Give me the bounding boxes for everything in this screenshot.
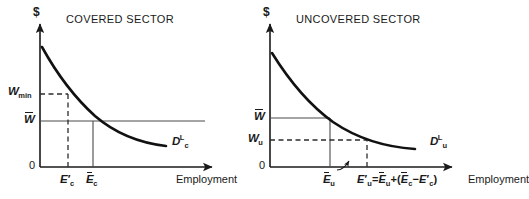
- covered-origin-label: 0: [29, 160, 35, 171]
- uncovered-curve-label-sub: u: [442, 141, 447, 150]
- uncovered-x-axis-label: Employment: [468, 174, 529, 185]
- covered-ytick-wmin-sub: min: [18, 91, 31, 100]
- uncovered-ytick-wbar: W: [254, 111, 265, 123]
- eq-close-paren: ): [434, 173, 438, 185]
- uncovered-demand-curve: [272, 53, 415, 149]
- covered-curve-label-sub: c: [184, 141, 188, 150]
- uncovered-curve-label: DLu: [430, 136, 448, 148]
- covered-xtick-ebar: Ec: [86, 174, 98, 186]
- eq-term3-sub: c: [429, 179, 433, 188]
- covered-ytick-wmin: Wmin: [8, 86, 32, 98]
- covered-ytick-wbar: W: [24, 114, 35, 126]
- panel-uncovered: [270, 24, 452, 170]
- covered-y-axis-label: $: [33, 6, 40, 18]
- covered-ytick-wbar-base: W: [24, 114, 35, 126]
- covered-curve-label: DLc: [172, 136, 189, 148]
- uncovered-panel-title: UNCOVERED SECTOR: [296, 14, 421, 25]
- eq-term1-sub: u: [386, 179, 391, 188]
- uncovered-y-axis-label: $: [263, 6, 270, 18]
- uncovered-shift-equation: E′u=Eu+(Ec−E′c): [357, 174, 437, 185]
- eq-lhs-sub: u: [367, 179, 372, 188]
- uncovered-ytick-wu-sub: u: [258, 138, 263, 147]
- uncovered-xtick-ebar-sub: u: [330, 179, 335, 188]
- covered-xtick-ebar-sub: c: [93, 179, 97, 188]
- covered-demand-curve: [42, 47, 166, 146]
- eq-term3-base: E: [419, 173, 426, 185]
- eq-term2-sub: c: [408, 179, 412, 188]
- eq-term1-base: E: [378, 174, 385, 185]
- covered-xtick-eprime-sub: c: [70, 179, 74, 188]
- uncovered-ytick-wbar-base: W: [254, 111, 265, 123]
- uncovered-ytick-wu: Wu: [248, 133, 263, 145]
- covered-panel-title: COVERED SECTOR: [66, 14, 174, 25]
- uncovered-xtick-ebar: Eu: [323, 174, 335, 186]
- covered-xtick-eprime: E′c: [60, 174, 75, 186]
- covered-x-axis-label: Employment: [176, 174, 237, 185]
- uncovered-origin-label: 0: [259, 160, 265, 171]
- shift-arrow-icon: [337, 161, 349, 170]
- covered-xtick-eprime-base: E: [60, 173, 68, 185]
